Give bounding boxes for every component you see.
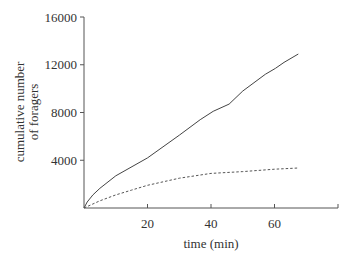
- x-axis-title: time (min): [183, 236, 238, 251]
- y-axis-title: cumulative numberof foragers: [12, 61, 41, 162]
- series-line-solid: [84, 54, 298, 208]
- line-chart: 400080001200016000204060time (min)cumula…: [0, 0, 355, 264]
- y-axis-title-line: cumulative number: [12, 61, 27, 162]
- y-tick-label: 16000: [45, 10, 78, 25]
- y-tick-label: 4000: [51, 153, 77, 168]
- series-group: [84, 54, 298, 208]
- y-tick-label: 8000: [51, 105, 77, 120]
- x-tick-label: 40: [205, 216, 218, 231]
- axes: [80, 17, 338, 208]
- y-axis-title-line: of foragers: [26, 84, 41, 141]
- labels: 400080001200016000204060time (min)cumula…: [12, 10, 281, 252]
- series-line-dashed: [84, 168, 298, 208]
- x-tick-label: 20: [141, 216, 154, 231]
- y-tick-label: 12000: [45, 57, 78, 72]
- x-tick-label: 60: [268, 216, 281, 231]
